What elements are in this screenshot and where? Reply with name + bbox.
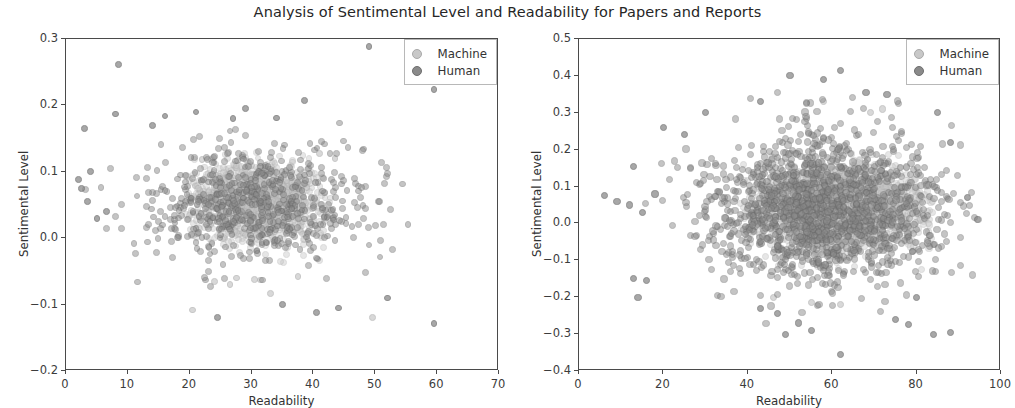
legend-entry-human[interactable]: Human bbox=[914, 62, 989, 79]
legend-entry-machine[interactable]: Machine bbox=[412, 45, 487, 62]
scatter-point bbox=[252, 192, 259, 199]
scatter-point bbox=[301, 180, 308, 187]
scatter-point bbox=[808, 234, 815, 241]
scatter-point bbox=[829, 218, 836, 225]
scatter-point bbox=[880, 234, 887, 241]
scatter-point bbox=[898, 183, 905, 190]
scatter-point bbox=[794, 219, 801, 226]
scatter-point bbox=[233, 219, 240, 226]
scatter-point bbox=[259, 239, 266, 246]
scatter-point bbox=[821, 217, 828, 224]
scatter-point bbox=[798, 254, 805, 261]
scatter-point bbox=[366, 242, 373, 249]
scatter-point bbox=[832, 181, 839, 188]
scatter-point bbox=[181, 202, 188, 209]
scatter-point bbox=[852, 194, 859, 201]
scatter-point bbox=[206, 212, 213, 219]
scatter-point bbox=[239, 154, 246, 161]
scatter-point bbox=[850, 200, 857, 207]
scatter-point bbox=[813, 260, 820, 267]
scatter-point bbox=[904, 193, 911, 200]
scatter-point bbox=[811, 217, 818, 224]
scatter-point bbox=[883, 178, 890, 185]
scatter-point bbox=[841, 215, 848, 222]
scatter-point bbox=[823, 197, 830, 204]
scatter-point bbox=[844, 170, 851, 177]
scatter-point bbox=[826, 230, 833, 237]
legend-right[interactable]: Machine Human bbox=[906, 39, 999, 85]
scatter-point bbox=[791, 216, 798, 223]
scatter-point bbox=[809, 164, 816, 171]
scatter-point bbox=[250, 212, 257, 219]
scatter-point bbox=[94, 215, 101, 222]
scatter-point bbox=[186, 212, 193, 219]
scatter-point bbox=[879, 247, 886, 254]
legend-entry-machine[interactable]: Machine bbox=[914, 45, 989, 62]
scatter-point bbox=[899, 216, 906, 223]
scatter-point bbox=[305, 262, 312, 269]
scatter-point bbox=[852, 192, 859, 199]
scatter-point bbox=[915, 190, 922, 197]
scatter-point bbox=[843, 174, 850, 181]
scatter-point bbox=[898, 240, 905, 247]
scatter-point bbox=[252, 235, 259, 242]
scatter-point bbox=[905, 182, 912, 189]
scatter-point bbox=[282, 244, 289, 251]
scatter-point bbox=[828, 185, 835, 192]
scatter-point bbox=[781, 198, 788, 205]
scatter-point bbox=[276, 179, 283, 186]
scatter-point bbox=[772, 200, 779, 207]
scatter-point bbox=[858, 160, 865, 167]
scatter-point bbox=[781, 201, 788, 208]
scatter-point bbox=[896, 232, 903, 239]
scatter-point bbox=[888, 190, 895, 197]
scatter-point bbox=[823, 244, 830, 251]
scatter-point bbox=[843, 197, 850, 204]
scatter-point bbox=[833, 193, 840, 200]
scatter-point bbox=[777, 187, 784, 194]
scatter-point bbox=[793, 195, 800, 202]
scatter-point bbox=[797, 211, 804, 218]
scatter-point bbox=[873, 202, 880, 209]
scatter-point bbox=[774, 202, 781, 209]
scatter-point bbox=[229, 204, 236, 211]
scatter-point bbox=[87, 168, 94, 175]
scatter-point bbox=[813, 198, 820, 205]
legend-left[interactable]: Machine Human bbox=[404, 39, 497, 85]
scatter-point bbox=[757, 187, 764, 194]
scatter-point bbox=[243, 212, 250, 219]
scatter-point bbox=[804, 198, 811, 205]
scatter-point bbox=[850, 172, 857, 179]
scatter-point bbox=[923, 183, 930, 190]
scatter-point bbox=[228, 203, 235, 210]
scatter-point bbox=[803, 222, 810, 229]
scatter-point bbox=[807, 231, 814, 238]
scatter-point bbox=[848, 220, 855, 227]
scatter-point bbox=[823, 191, 830, 198]
scatter-point bbox=[237, 199, 244, 206]
scatter-point bbox=[776, 213, 783, 220]
scatter-point bbox=[924, 187, 931, 194]
scatter-point bbox=[843, 180, 850, 187]
scatter-point bbox=[860, 207, 867, 214]
scatter-point bbox=[854, 237, 861, 244]
scatter-point bbox=[854, 220, 861, 227]
scatter-point bbox=[851, 251, 858, 258]
scatter-point bbox=[864, 194, 871, 201]
scatter-point bbox=[821, 179, 828, 186]
scatter-point bbox=[871, 188, 878, 195]
scatter-point bbox=[848, 242, 855, 249]
scatter-point bbox=[866, 187, 873, 194]
scatter-point bbox=[254, 170, 261, 177]
scatter-point bbox=[850, 201, 857, 208]
scatter-point bbox=[821, 188, 828, 195]
scatter-point bbox=[241, 217, 248, 224]
scatter-point bbox=[222, 244, 229, 251]
scatter-point bbox=[789, 209, 796, 216]
scatter-point bbox=[852, 160, 859, 167]
scatter-point bbox=[803, 170, 810, 177]
scatter-point bbox=[879, 215, 886, 222]
scatter-point bbox=[782, 195, 789, 202]
scatter-point bbox=[787, 182, 794, 189]
legend-entry-human[interactable]: Human bbox=[412, 62, 487, 79]
